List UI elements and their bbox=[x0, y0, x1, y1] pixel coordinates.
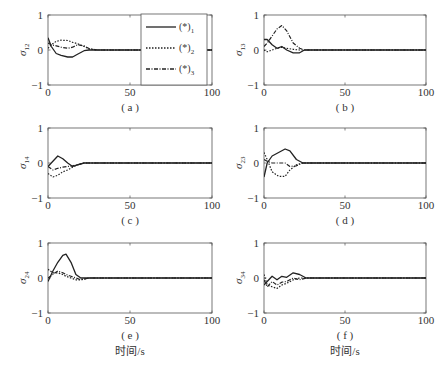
y-tick-label: −1 bbox=[247, 192, 259, 204]
x-tick-label: 100 bbox=[418, 314, 435, 326]
series-line bbox=[48, 163, 212, 177]
x-tick-label: 50 bbox=[125, 314, 137, 326]
x-tick-label: 100 bbox=[204, 314, 221, 326]
y-tick-label: −1 bbox=[31, 192, 43, 204]
y-axis-label: σ12 bbox=[16, 43, 31, 56]
y-tick-label: 1 bbox=[38, 237, 44, 249]
panel-label: ( a ) bbox=[121, 101, 139, 114]
y-tick-label: 1 bbox=[254, 237, 260, 249]
panel-label: ( c ) bbox=[121, 214, 139, 227]
y-tick-label: −1 bbox=[247, 79, 259, 91]
panel-c: 050100−101σ14( c ) bbox=[16, 122, 221, 227]
x-tick-label: 0 bbox=[261, 199, 267, 211]
y-tick-label: 0 bbox=[254, 44, 260, 56]
x-tick-label: 0 bbox=[45, 86, 51, 98]
x-tick-label: 0 bbox=[261, 314, 267, 326]
x-tick-label: 50 bbox=[125, 199, 137, 211]
x-tick-label: 50 bbox=[340, 86, 352, 98]
x-tick-label: 0 bbox=[261, 86, 267, 98]
x-tick-label: 50 bbox=[340, 199, 352, 211]
y-axis-label: σ23 bbox=[232, 156, 247, 169]
x-tick-label: 100 bbox=[204, 86, 221, 98]
panel-label: ( e ) bbox=[121, 329, 139, 342]
x-tick-label: 50 bbox=[340, 314, 352, 326]
panel-e: 050100−101σ24( e ) bbox=[16, 237, 221, 342]
x-tick-label: 100 bbox=[204, 199, 221, 211]
series-line bbox=[264, 273, 426, 285]
panel-f: 050100−101σ34( f ) bbox=[232, 237, 435, 342]
y-tick-label: 1 bbox=[38, 122, 44, 134]
x-axis-label: 时间/s bbox=[115, 345, 144, 357]
y-tick-label: 1 bbox=[254, 122, 260, 134]
x-axis-label: 时间/s bbox=[330, 345, 359, 357]
panel-a: 050100−101σ12( a )(*)1(*)2(*)3 bbox=[16, 9, 221, 114]
y-tick-label: −1 bbox=[31, 307, 43, 319]
y-tick-label: 1 bbox=[38, 9, 44, 21]
x-tick-label: 50 bbox=[125, 86, 137, 98]
x-tick-label: 0 bbox=[45, 199, 51, 211]
y-axis-label: σ24 bbox=[16, 271, 31, 284]
y-tick-label: 0 bbox=[38, 157, 44, 169]
panel-d: 050100−101σ23( d ) bbox=[232, 122, 435, 227]
y-tick-label: 0 bbox=[38, 272, 44, 284]
series-line bbox=[264, 153, 426, 177]
y-tick-label: 0 bbox=[254, 272, 260, 284]
panel-label: ( f ) bbox=[337, 329, 354, 342]
series-line bbox=[264, 26, 426, 51]
y-axis-label: σ34 bbox=[232, 271, 247, 284]
y-tick-label: 0 bbox=[254, 157, 260, 169]
panel-b: 050100−101σ13( b ) bbox=[232, 9, 435, 114]
x-tick-label: 100 bbox=[418, 86, 435, 98]
panel-label: ( d ) bbox=[336, 214, 355, 227]
figure-canvas: 050100−101σ12( a )(*)1(*)2(*)3050100−101… bbox=[0, 0, 444, 374]
x-tick-label: 100 bbox=[418, 199, 435, 211]
legend: (*)1(*)2(*)3 bbox=[141, 14, 207, 85]
y-axis-label: σ14 bbox=[16, 156, 31, 169]
y-tick-label: −1 bbox=[247, 307, 259, 319]
x-tick-label: 0 bbox=[45, 314, 51, 326]
panel-label: ( b ) bbox=[336, 101, 355, 114]
y-tick-label: 0 bbox=[38, 44, 44, 56]
y-axis-label: σ13 bbox=[232, 43, 247, 56]
y-tick-label: −1 bbox=[31, 79, 43, 91]
y-tick-label: 1 bbox=[254, 9, 260, 21]
series-line bbox=[48, 156, 212, 167]
series-line bbox=[264, 40, 426, 53]
